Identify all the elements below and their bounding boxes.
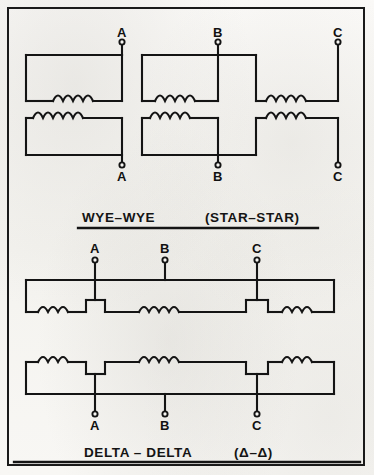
wye-secondary-coil-b xyxy=(142,113,218,164)
caption-wye-right: (STAR–STAR) xyxy=(205,210,300,225)
terminal-ring-delta-primary-b xyxy=(162,257,167,262)
delta-primary-winding xyxy=(26,280,334,312)
wye-primary-label-c: C xyxy=(333,26,342,39)
delta-secondary-label-a: A xyxy=(90,419,99,432)
terminal-ring-delta-secondary-a xyxy=(92,411,97,416)
caption-delta-left: DELTA – DELTA xyxy=(84,445,192,460)
terminal-ring-delta-primary-c xyxy=(254,257,259,262)
terminal-ring-wye-primary-a xyxy=(119,39,124,44)
caption-wye-left: WYE–WYE xyxy=(82,210,155,225)
wye-primary-label-b: B xyxy=(213,26,222,39)
wye-primary-coil-b xyxy=(142,55,218,101)
delta-secondary-label-c: C xyxy=(252,419,261,432)
wye-primary-label-a: A xyxy=(117,26,126,39)
wye-secondary-coil-c xyxy=(256,113,338,164)
schematic-artwork xyxy=(0,0,374,475)
caption-delta-right: (Δ–Δ) xyxy=(234,445,273,460)
terminal-ring-delta-secondary-b xyxy=(162,411,167,416)
wye-secondary-label-b: B xyxy=(213,170,222,183)
figure-page: A B C A B C WYE–WYE (STAR–STAR) A B C A … xyxy=(0,0,374,475)
wye-primary-coil-c xyxy=(256,44,338,101)
terminal-ring-wye-secondary-c xyxy=(335,162,340,167)
delta-primary-label-b: B xyxy=(160,242,169,255)
wye-secondary-label-c: C xyxy=(333,170,342,183)
delta-secondary-winding xyxy=(26,357,334,394)
terminal-ring-delta-secondary-c xyxy=(254,411,259,416)
terminal-ring-delta-primary-a xyxy=(92,257,97,262)
delta-primary-label-c: C xyxy=(252,242,261,255)
wye-secondary-coil-a xyxy=(26,113,122,164)
terminal-ring-wye-secondary-b xyxy=(215,162,220,167)
terminal-ring-wye-primary-b xyxy=(215,39,220,44)
delta-secondary-label-b: B xyxy=(160,419,169,432)
delta-primary-label-a: A xyxy=(90,242,99,255)
terminal-ring-wye-secondary-a xyxy=(119,162,124,167)
wye-secondary-label-a: A xyxy=(117,170,126,183)
terminal-ring-wye-primary-c xyxy=(335,39,340,44)
wye-primary-coil-a xyxy=(26,55,122,101)
